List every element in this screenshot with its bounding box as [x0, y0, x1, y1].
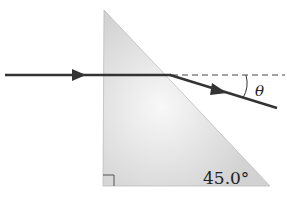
refracted-arrow-icon — [210, 83, 227, 95]
incident-arrow-icon — [72, 69, 86, 81]
angle-label: 45.0° — [203, 168, 249, 188]
prism-diagram: θ 45.0° — [0, 0, 287, 204]
theta-angle-arc — [243, 75, 247, 98]
theta-label: θ — [255, 82, 264, 100]
